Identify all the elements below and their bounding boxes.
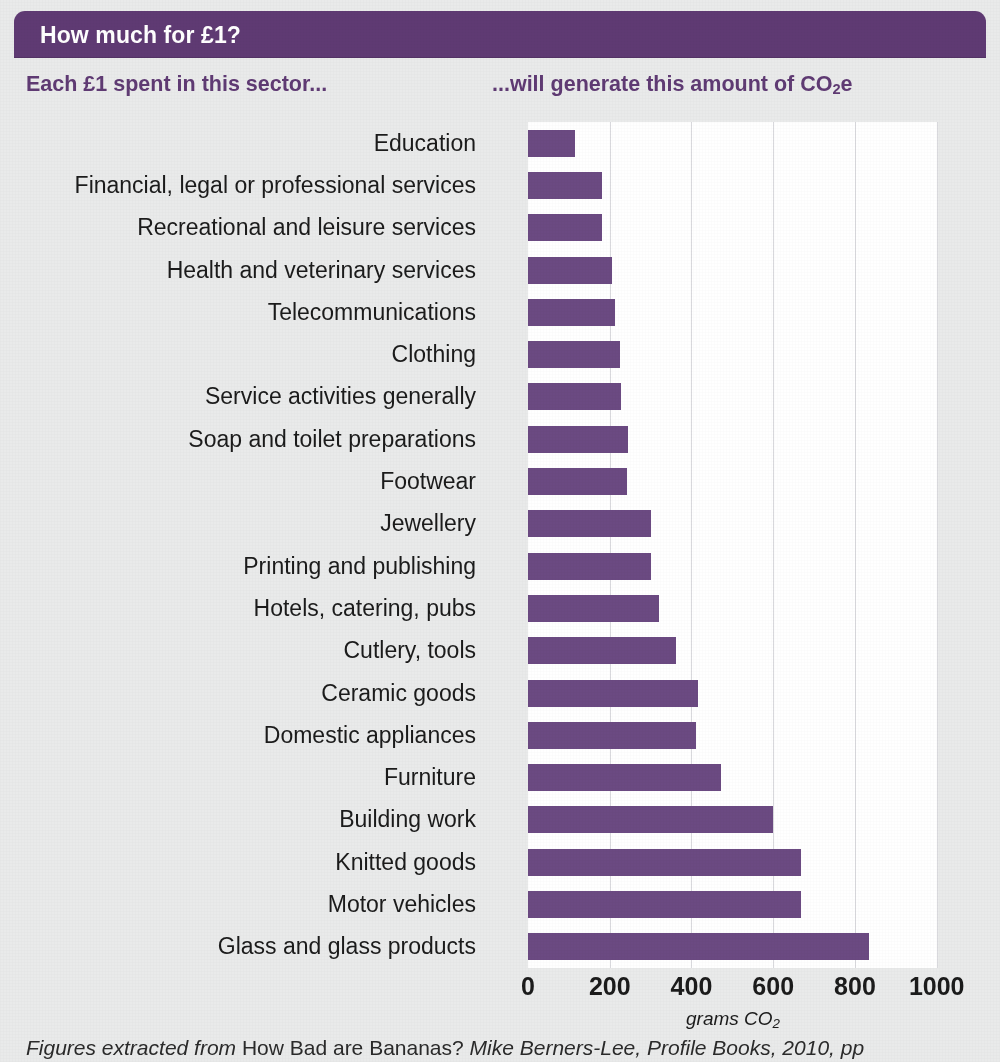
category-label: Footwear bbox=[380, 470, 476, 493]
bar-row: Jewellery bbox=[0, 503, 1000, 545]
x-tick-label-1000: 1000 bbox=[909, 972, 965, 1001]
bar-row: Knitted goods bbox=[0, 841, 1000, 883]
subhead-left: Each £1 spent in this sector... bbox=[26, 72, 327, 97]
bar bbox=[528, 172, 602, 199]
bar-row: Glass and glass products bbox=[0, 926, 1000, 968]
subhead-right-subscript: 2 bbox=[832, 81, 840, 97]
page-title: How much for £1? bbox=[40, 22, 241, 49]
caption-part3: Mike Berners-Lee, Profile Books, 2010, p… bbox=[464, 1036, 864, 1059]
bar bbox=[528, 257, 612, 284]
category-label: Jewellery bbox=[380, 512, 476, 535]
bar bbox=[528, 214, 602, 241]
category-label: Domestic appliances bbox=[264, 724, 476, 747]
bar-row: Clothing bbox=[0, 334, 1000, 376]
bar bbox=[528, 849, 801, 876]
x-axis-title: grams CO2 bbox=[686, 1008, 780, 1031]
category-label: Education bbox=[374, 132, 476, 155]
category-label: Printing and publishing bbox=[243, 555, 476, 578]
bar bbox=[528, 933, 869, 960]
caption-part1: Figures extracted from bbox=[26, 1036, 242, 1059]
bar bbox=[528, 553, 651, 580]
bar-row: Ceramic goods bbox=[0, 672, 1000, 714]
bar-row: Building work bbox=[0, 799, 1000, 841]
bar-row: Health and veterinary services bbox=[0, 249, 1000, 291]
bar bbox=[528, 637, 676, 664]
subhead-right: ...will generate this amount of CO2e bbox=[492, 72, 853, 97]
bar bbox=[528, 426, 628, 453]
bar-row: Motor vehicles bbox=[0, 883, 1000, 925]
bar-row: Soap and toilet preparations bbox=[0, 418, 1000, 460]
bar bbox=[528, 130, 575, 157]
bar bbox=[528, 595, 659, 622]
bar-row: Financial, legal or professional service… bbox=[0, 164, 1000, 206]
category-label: Cutlery, tools bbox=[343, 639, 476, 662]
bar-row: Domestic appliances bbox=[0, 714, 1000, 756]
bar bbox=[528, 764, 721, 791]
category-label: Ceramic goods bbox=[321, 682, 476, 705]
bar bbox=[528, 891, 801, 918]
x-axis: grams CO2 02004006008001000 bbox=[0, 972, 1000, 1022]
category-label: Hotels, catering, pubs bbox=[254, 597, 476, 620]
bar-row: Cutlery, tools bbox=[0, 630, 1000, 672]
bar-row: Hotels, catering, pubs bbox=[0, 587, 1000, 629]
category-label: Service activities generally bbox=[205, 385, 476, 408]
x-tick-label-200: 200 bbox=[589, 972, 631, 1001]
bar bbox=[528, 722, 696, 749]
source-caption: Figures extracted from How Bad are Banan… bbox=[26, 1036, 986, 1060]
x-tick-label-600: 600 bbox=[752, 972, 794, 1001]
category-label: Furniture bbox=[384, 766, 476, 789]
category-label: Glass and glass products bbox=[218, 935, 476, 958]
bar-row: Printing and publishing bbox=[0, 545, 1000, 587]
category-label: Building work bbox=[339, 808, 476, 831]
bar-row: Education bbox=[0, 122, 1000, 164]
bar bbox=[528, 510, 651, 537]
x-axis-title-subscript: 2 bbox=[773, 1016, 780, 1031]
category-label: Motor vehicles bbox=[328, 893, 476, 916]
bar-row: Service activities generally bbox=[0, 376, 1000, 418]
chart-page: How much for £1? Each £1 spent in this s… bbox=[0, 0, 1000, 1062]
category-label: Recreational and leisure services bbox=[137, 216, 476, 239]
category-label: Soap and toilet preparations bbox=[188, 428, 476, 451]
bar bbox=[528, 806, 773, 833]
x-tick-label-800: 800 bbox=[834, 972, 876, 1001]
bar-row: Telecommunications bbox=[0, 291, 1000, 333]
x-tick-label-400: 400 bbox=[671, 972, 713, 1001]
caption-book-title: How Bad are Bananas? bbox=[242, 1036, 464, 1059]
header-bar: How much for £1? bbox=[14, 11, 986, 58]
x-tick-label-0: 0 bbox=[521, 972, 535, 1001]
subhead-right-prefix: ...will generate this amount of CO bbox=[492, 72, 832, 96]
bar-row: Recreational and leisure services bbox=[0, 207, 1000, 249]
bar bbox=[528, 468, 627, 495]
bar-row: Furniture bbox=[0, 757, 1000, 799]
bar bbox=[528, 299, 615, 326]
category-label: Knitted goods bbox=[335, 851, 476, 874]
bar bbox=[528, 341, 620, 368]
subhead-right-suffix: e bbox=[841, 72, 853, 96]
category-label: Health and veterinary services bbox=[167, 259, 476, 282]
category-label: Financial, legal or professional service… bbox=[75, 174, 476, 197]
bar bbox=[528, 383, 621, 410]
x-axis-title-text: grams CO bbox=[686, 1008, 773, 1029]
bar-chart: EducationFinancial, legal or professiona… bbox=[0, 116, 1000, 976]
bar-row: Footwear bbox=[0, 460, 1000, 502]
bar-rows: EducationFinancial, legal or professiona… bbox=[0, 122, 1000, 968]
category-label: Telecommunications bbox=[268, 301, 476, 324]
bar bbox=[528, 680, 698, 707]
category-label: Clothing bbox=[392, 343, 476, 366]
